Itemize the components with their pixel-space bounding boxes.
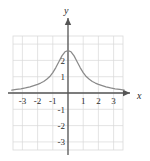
x-tick-label: 1 [81, 96, 86, 106]
x-tick-label: -3 [19, 96, 27, 106]
y-tick-label: 2 [61, 56, 66, 66]
x-axis-label: x [136, 90, 142, 101]
x-tick-label: -1 [49, 96, 57, 106]
y-tick-label: 1 [61, 72, 66, 82]
y-axis-label: y [63, 5, 69, 16]
x-tick-label: -2 [34, 96, 42, 106]
cartesian-plot: -3-2-1123 21-1-2-3 x y [0, 0, 150, 161]
x-tick-label: 3 [111, 96, 116, 106]
x-tick-label: 2 [96, 96, 101, 106]
y-tick-label: -1 [58, 105, 66, 115]
y-tick-label: -3 [58, 137, 66, 147]
graph-figure: -3-2-1123 21-1-2-3 x y [0, 0, 150, 161]
y-tick-label: -2 [58, 121, 66, 131]
